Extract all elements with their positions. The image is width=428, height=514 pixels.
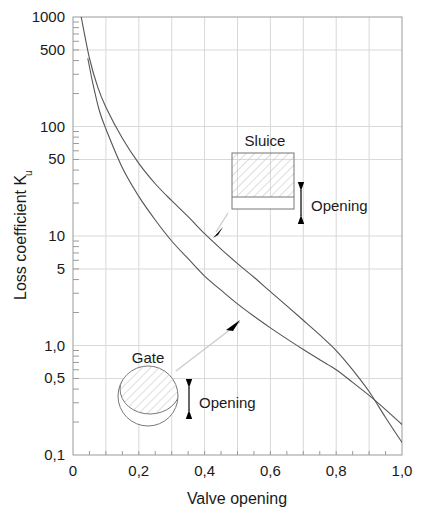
x-tick-label: 0,4 [194,462,215,479]
y-axis-title-subscript: u [23,170,34,176]
gate-inset-title: Gate [132,349,165,366]
x-axis-title-text: Valve opening [187,490,287,507]
y-tick-label: 500 [40,41,65,58]
y-tick-label: 50 [48,150,65,167]
sluice-inset-title: Sluice [245,132,286,149]
chart-container: 1000500100501051,00,50,1 00,20,40,60,81,… [0,0,428,514]
loss-coefficient-chart: 1000500100501051,00,50,1 00,20,40,60,81,… [0,0,428,514]
y-axis-title-text: Loss coefficient K [12,175,29,300]
y-tick-label: 5 [57,260,65,277]
x-tick-label: 0,6 [260,462,281,479]
x-tick-label: 0,8 [326,462,347,479]
y-tick-label: 100 [40,118,65,135]
y-tick-label: 1000 [32,8,65,25]
sluice-opening-gap [232,197,294,209]
gate-opening-label: Opening [199,394,256,411]
y-tick-label: 10 [48,227,65,244]
y-tick-label: 1,0 [44,337,65,354]
y-tick-label: 0,1 [44,446,65,463]
chart-background [0,0,428,514]
x-tick-label: 0,2 [128,462,149,479]
x-tick-label: 1,0 [392,462,413,479]
y-tick-label: 0,5 [44,369,65,386]
x-tick-label: 0 [69,462,77,479]
sluice-opening-label: Opening [311,197,368,214]
